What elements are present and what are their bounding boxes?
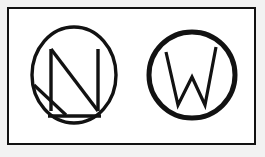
monogram-w-graphic [145, 23, 245, 128]
scene-description: Two black circular monogram logos on a w… [0, 0, 1, 1]
logo-card: N W [7, 7, 256, 145]
image-canvas: N W Two black circular monogram logos on… [0, 0, 265, 157]
n-diagonal [51, 49, 98, 111]
monogram-n: N [25, 23, 125, 128]
w-letterform [166, 47, 216, 105]
logo-row: N W [9, 9, 254, 143]
monogram-n-letter: N [25, 128, 26, 129]
monogram-w-letter: W [145, 128, 146, 129]
circle-outline-n [32, 27, 116, 123]
monogram-w: W [145, 23, 245, 128]
monogram-n-graphic [25, 23, 125, 128]
